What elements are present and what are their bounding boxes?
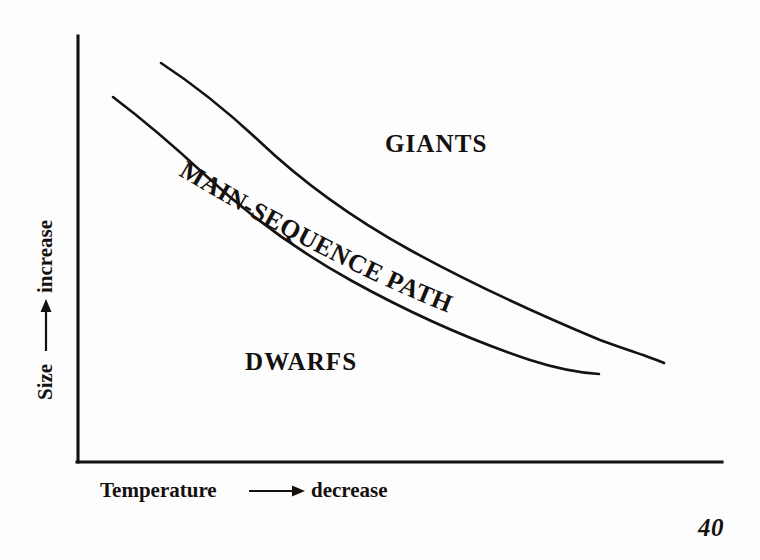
y-axis-up-arrow-icon [41, 299, 52, 351]
x-axis-title-group: Temperature decrease [100, 478, 388, 502]
region-label-giants: GIANTS [385, 130, 487, 157]
y-axis-direction-label: increase [33, 220, 57, 293]
region-label-dwarfs: DWARFS [245, 348, 357, 375]
main-sequence-band [113, 63, 664, 374]
main-sequence-lower-curve [113, 97, 599, 374]
page-number: 40 [698, 514, 724, 542]
hr-diagram-figure: GIANTS DWARFS MAIN-SEQUENCE PATH decreas… [0, 0, 760, 560]
band-label-textpath: MAIN-SEQUENCE PATH [175, 155, 457, 318]
x-axis-direction-label: decrease [311, 478, 388, 502]
axes-group [77, 36, 722, 462]
figure-page: GIANTS DWARFS MAIN-SEQUENCE PATH decreas… [0, 0, 760, 560]
band-label-main-sequence-path: MAIN-SEQUENCE PATH [175, 155, 457, 318]
y-axis-term-label: Size [33, 364, 57, 400]
x-axis-term-label: Temperature [100, 478, 217, 502]
y-axis-title-group: Size increase [33, 220, 57, 400]
x-axis-right-arrow-icon [249, 486, 305, 497]
